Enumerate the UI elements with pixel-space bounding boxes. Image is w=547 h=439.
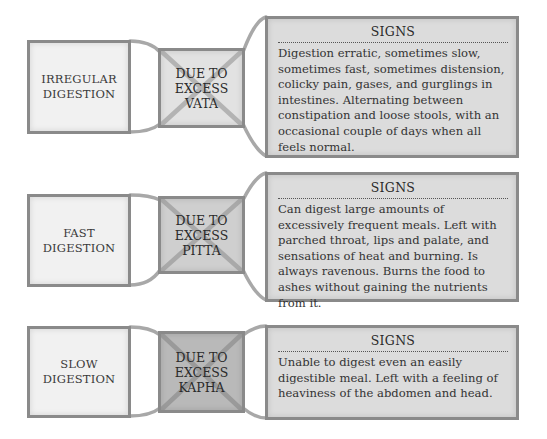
- connector-line: [243, 124, 266, 156]
- signs-text: Unable to digest even an easily digestib…: [278, 355, 508, 402]
- cause-line: EXCESS: [175, 81, 228, 96]
- condition-box-slow: SLOW DIGESTION: [27, 326, 131, 418]
- condition-label: IRREGULAR DIGESTION: [39, 72, 119, 102]
- condition-label: FAST DIGESTION: [39, 226, 119, 256]
- signs-box-kapha: SIGNS Unable to digest even an easily di…: [265, 325, 519, 420]
- cause-box-kapha: DUE TOEXCESSKAPHA: [158, 331, 245, 413]
- connector-line: [243, 270, 266, 300]
- signs-title: SIGNS: [278, 334, 508, 352]
- connector-line: [130, 124, 160, 132]
- connector-line: [130, 408, 160, 416]
- cause-line: EXCESS: [175, 228, 228, 243]
- condition-box-fast: FAST DIGESTION: [27, 194, 131, 287]
- connector-line: [130, 327, 160, 335]
- connector-line: [130, 195, 160, 200]
- cause-line: EXCESS: [175, 365, 228, 380]
- connector-line: [130, 270, 160, 285]
- signs-box-vata: SIGNS Digestion erratic, sometimes slow,…: [265, 16, 519, 158]
- cause-line: VATA: [185, 96, 218, 111]
- signs-box-pitta: SIGNS Can digest large amounts of excess…: [265, 172, 519, 302]
- signs-text: Digestion erratic, sometimes slow, somet…: [278, 46, 508, 155]
- condition-label: SLOW DIGESTION: [39, 357, 119, 387]
- signs-title: SIGNS: [278, 181, 508, 199]
- cause-box-vata: DUE TOEXCESSVATA: [158, 48, 245, 128]
- connector-line: [130, 41, 160, 52]
- connector-line: [243, 173, 266, 200]
- signs-text: Can digest large amounts of excessively …: [278, 202, 508, 311]
- connector-line: [243, 326, 266, 335]
- cause-line: KAPHA: [178, 380, 224, 395]
- condition-box-irregular: IRREGULAR DIGESTION: [27, 40, 131, 134]
- connector-line: [243, 17, 266, 52]
- cause-line: DUE TO: [175, 66, 227, 81]
- connector-line: [243, 408, 266, 418]
- cause-line: DUE TO: [175, 213, 227, 228]
- signs-title: SIGNS: [278, 25, 508, 43]
- cause-line: PITTA: [182, 243, 221, 258]
- cause-box-pitta: DUE TOEXCESSPITTA: [158, 196, 245, 274]
- cause-line: DUE TO: [175, 350, 227, 365]
